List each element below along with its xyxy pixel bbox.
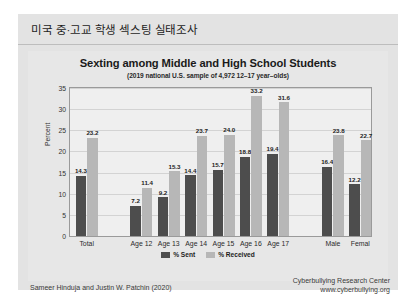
x-axis-tick: Age 15 [213, 240, 235, 247]
report-card: 미국 중·고교 학생 섹스팅 실태조사 Sexting among Middle… [18, 14, 398, 290]
bar [322, 167, 333, 236]
bar [279, 102, 290, 236]
bar [130, 206, 141, 236]
bar [213, 170, 224, 236]
bar-value-label: 22.7 [360, 132, 372, 139]
bar-value-label: 23.8 [333, 127, 345, 134]
x-axis-tick: Age 17 [267, 240, 289, 247]
x-axis-tick: Age 14 [185, 240, 207, 247]
y-axis-tick: 0 [44, 233, 66, 240]
chart-subtitle: (2019 national U.S. sample of 4,972 12–1… [28, 72, 388, 79]
page-title: 미국 중·고교 학생 섹스팅 실태조사 [31, 21, 198, 37]
gridline [70, 130, 371, 131]
bar [267, 154, 278, 236]
bar [169, 171, 180, 236]
bar-value-label: 15.7 [212, 161, 224, 168]
source-org: Cyberbullying Research Center [240, 276, 390, 285]
x-axis-tick: Total [79, 240, 94, 247]
bar [87, 138, 98, 236]
chart-title: Sexting among Middle and High School Stu… [28, 57, 388, 69]
x-axis-tick: Age 12 [130, 240, 152, 247]
x-axis-tick: Age 16 [240, 240, 262, 247]
bar-value-label: 14.3 [75, 167, 87, 174]
bar [158, 197, 169, 236]
bar-value-label: 19.4 [266, 145, 278, 152]
legend-swatch-icon [161, 252, 170, 258]
bar [361, 140, 372, 236]
source-block: Cyberbullying Research Center www.cyberb… [240, 276, 390, 294]
y-axis-tick: 15 [44, 169, 66, 176]
bar-value-label: 14.4 [184, 167, 196, 174]
chart-panel: Sexting among Middle and High School Stu… [28, 51, 388, 281]
bar [224, 135, 235, 236]
bar [240, 157, 251, 236]
bar-value-label: 16.4 [321, 158, 333, 165]
y-axis-tick: 20 [44, 148, 66, 155]
bar [76, 176, 87, 236]
bar-value-label: 23.7 [196, 127, 208, 134]
bar-value-label: 9.2 [159, 189, 168, 196]
legend-label: % Sent [173, 251, 195, 258]
bar [197, 136, 208, 236]
bar [333, 135, 344, 236]
bar [142, 188, 153, 236]
x-axis-tick: Femal [351, 240, 370, 247]
y-axis-tick: 5 [44, 211, 66, 218]
legend-item: % Sent [161, 251, 195, 258]
x-axis-tick: Male [325, 240, 340, 247]
source-url: www.cyberbullying.org [240, 285, 390, 294]
bar-value-label: 31.6 [278, 94, 290, 101]
legend-item: % Received [206, 251, 255, 258]
bar [251, 96, 262, 236]
bar-value-label: 7.2 [131, 197, 140, 204]
plot-area: Percent 05101520253035 14.323.27.211.49.… [69, 87, 372, 237]
y-axis-tick: 25 [44, 127, 66, 134]
bar [349, 184, 360, 236]
chart-legend: % Sent% Received [28, 251, 388, 258]
gridline [70, 109, 371, 110]
y-axis-tick: 10 [44, 190, 66, 197]
gridline [70, 151, 371, 152]
gridline [70, 88, 371, 89]
bar-value-label: 23.2 [86, 129, 98, 136]
bar-value-label: 12.2 [349, 176, 361, 183]
bar-value-label: 33.2 [251, 87, 263, 94]
bar-value-label: 11.4 [141, 179, 153, 186]
credit-text: Sameer Hinduja and Justin W. Patchin (20… [30, 284, 172, 291]
bar-value-label: 15.3 [168, 163, 180, 170]
x-axis-tick: Age 13 [158, 240, 180, 247]
card-header: 미국 중·고교 학생 섹스팅 실태조사 [18, 14, 398, 45]
bar-value-label: 24.0 [223, 126, 235, 133]
y-axis-tick: 30 [44, 106, 66, 113]
legend-label: % Received [218, 251, 255, 258]
bar-value-label: 18.8 [239, 148, 251, 155]
bar [185, 175, 196, 236]
legend-swatch-icon [206, 252, 215, 258]
y-axis-tick: 35 [44, 85, 66, 92]
